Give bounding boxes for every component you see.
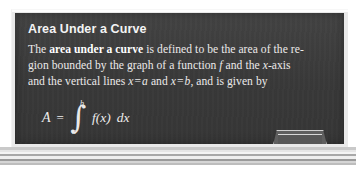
blackboard-frame: Area Under a Curve The area under a curv…	[11, 9, 348, 147]
body-line-2-text-c: -axis	[268, 59, 291, 72]
chalk-tray-lip	[278, 134, 322, 144]
body-line-3-text-c: , and is given by	[190, 75, 267, 88]
body-line-1-text-b: is defined to be the area of the re-	[143, 43, 304, 56]
body-line-3: and the vertical lines x=a and x=b, and …	[28, 74, 332, 90]
blackboard-surface: Area Under a Curve The area under a curv…	[15, 13, 344, 144]
chalk-tray	[273, 130, 327, 144]
formula-differential: dx	[117, 110, 130, 126]
defined-term: area under a curve	[49, 43, 143, 56]
body-line-1: The area under a curve is defined to be …	[28, 42, 332, 58]
board-bottom-ledge	[0, 147, 356, 173]
body-line-3-text-b: and	[148, 75, 171, 88]
math-symbol-x-1: x	[128, 75, 133, 88]
body-line-2: gion bounded by the graph of a function …	[28, 58, 332, 74]
definition-title: Area Under a Curve	[28, 22, 332, 37]
formula-integrand: f(x)	[92, 110, 111, 126]
body-line-2-text-b: and the	[223, 59, 263, 72]
body-line-2-text-a: gion bounded by the graph of a function	[28, 59, 219, 72]
body-line-1-text-a: The	[28, 43, 49, 56]
formula-equals: =	[57, 110, 64, 126]
math-equals-1: =	[134, 75, 143, 88]
integral-sign-group: ∫ b a	[70, 101, 87, 135]
definition-body: The area under a curve is defined to be …	[28, 42, 332, 91]
math-equals-2: =	[176, 75, 185, 88]
integral-lower-limit: a	[72, 127, 76, 136]
integral-upper-limit: b	[80, 99, 84, 108]
integral-formula: A = ∫ b a f(x) dx	[42, 101, 332, 135]
formula-lhs-A: A	[42, 110, 51, 126]
body-line-3-text-a: and the vertical lines	[28, 75, 128, 88]
figure-root: Area Under a Curve The area under a curv…	[0, 0, 356, 173]
ledge-band-9	[0, 165, 356, 173]
